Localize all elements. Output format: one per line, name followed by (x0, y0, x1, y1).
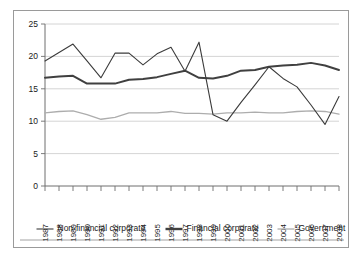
chart-frame: 0510152025 19871988198919901991199219931… (13, 10, 349, 248)
legend-label: Financial corporate (187, 223, 260, 233)
y-tick-label: 10 (29, 116, 39, 126)
data-series (45, 42, 339, 124)
y-tick-label: 0 (33, 181, 38, 191)
y-tick-label: 5 (33, 149, 38, 159)
y-axis-ticks (41, 24, 45, 186)
line-chart: 0510152025 19871988198919901991199219931… (14, 11, 350, 249)
series-line (45, 63, 339, 84)
legend-label: Government (299, 223, 346, 233)
x-axis-ticks (45, 186, 339, 191)
y-tick-label: 20 (29, 51, 39, 61)
x-tick-label: 2003 (265, 223, 274, 241)
y-tick-label: 25 (29, 19, 39, 29)
chart-screenshot: 0510152025 19871988198919901991199219931… (0, 0, 364, 257)
x-tick-label: 1987 (41, 223, 50, 241)
x-tick-label: 2004 (279, 223, 288, 241)
series-line (45, 111, 339, 119)
gridlines (45, 24, 339, 154)
y-axis-tick-labels: 0510152025 (29, 19, 39, 191)
x-tick-label: 1996 (167, 223, 176, 241)
y-tick-label: 15 (29, 84, 39, 94)
x-tick-label: 1995 (153, 223, 162, 241)
axis-lines (45, 24, 339, 186)
legend-label: Non-financial corporate (58, 223, 146, 233)
